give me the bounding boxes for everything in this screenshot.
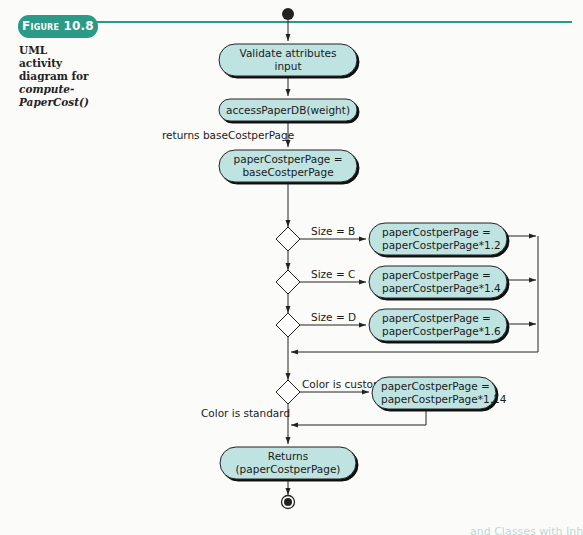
svg-text:paperCostperPage =: paperCostperPage = — [382, 226, 491, 238]
action-size-b: paperCostperPage = paperCostperPage*1.2 — [369, 223, 507, 255]
action-size-d: paperCostperPage = paperCostperPage*1.6 — [369, 309, 507, 341]
action-color-custom: paperCostperPage = paperCostperPage*1.14 — [372, 377, 507, 409]
svg-text:(paperCostperPage): (paperCostperPage) — [236, 463, 341, 475]
guard-size-c: Size = C — [311, 268, 355, 280]
guard-size-b: Size = B — [311, 225, 355, 237]
bleed-through-text: and Classes with Inh — [470, 525, 583, 535]
svg-text:paperCostperPage =: paperCostperPage = — [382, 269, 491, 281]
svg-text:paperCostperPage =: paperCostperPage = — [234, 153, 343, 165]
svg-text:paperCostperPage =: paperCostperPage = — [381, 380, 490, 392]
svg-text:baseCostperPage: baseCostperPage — [242, 166, 333, 178]
svg-text:accessPaperDB(weight): accessPaperDB(weight) — [226, 104, 350, 116]
svg-text:input: input — [274, 60, 301, 72]
action-access-db: accessPaperDB(weight) — [219, 99, 357, 121]
decision-size-c — [276, 270, 300, 294]
action-size-c: paperCostperPage = paperCostperPage*1.4 — [369, 266, 507, 298]
action-assign-base: paperCostperPage = baseCostperPage — [219, 150, 357, 182]
svg-text:paperCostperPage*1.14: paperCostperPage*1.14 — [381, 393, 507, 405]
decision-size-b — [276, 227, 300, 251]
decision-size-d — [276, 313, 300, 337]
svg-text:paperCostperPage*1.2: paperCostperPage*1.2 — [382, 239, 501, 251]
action-validate: Validate attributes input — [219, 44, 357, 76]
returns-label: returns baseCostperPage — [162, 129, 294, 141]
svg-text:Validate attributes: Validate attributes — [240, 47, 337, 59]
decision-color — [276, 380, 300, 404]
action-returns: Returns (paperCostperPage) — [220, 447, 356, 479]
guard-size-d: Size = D — [311, 311, 356, 323]
final-node — [282, 496, 295, 509]
svg-text:Returns: Returns — [268, 450, 308, 462]
guard-color-custom: Color is custom — [302, 378, 383, 390]
svg-text:paperCostperPage =: paperCostperPage = — [382, 312, 491, 324]
svg-text:paperCostperPage*1.4: paperCostperPage*1.4 — [382, 282, 501, 294]
guard-color-standard: Color is standard — [201, 407, 290, 419]
initial-node — [282, 8, 294, 20]
svg-text:paperCostperPage*1.6: paperCostperPage*1.6 — [382, 325, 501, 337]
